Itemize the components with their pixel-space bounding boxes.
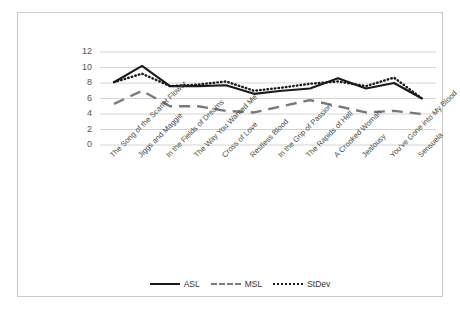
y-axis-tick-label: 8	[68, 77, 92, 87]
y-axis-tick-label: 4	[68, 108, 92, 118]
legend-key-icon	[211, 283, 241, 285]
legend-item-stdev[interactable]: StDev	[273, 279, 330, 289]
y-axis-tick-label: 10	[68, 62, 92, 72]
y-axis-tick-label: 2	[68, 124, 92, 134]
y-axis-tick-label: 12	[68, 46, 92, 56]
legend-label: MSL	[245, 279, 262, 289]
legend-item-asl[interactable]: ASL	[150, 279, 200, 289]
chart-legend: ASLMSLStDev	[130, 276, 350, 292]
legend-key-icon	[150, 283, 180, 285]
legend-label: StDev	[307, 279, 330, 289]
y-axis-tick-label: 0	[68, 139, 92, 149]
legend-item-msl[interactable]: MSL	[211, 279, 262, 289]
legend-key-icon	[273, 283, 303, 285]
y-axis-tick-label: 6	[68, 93, 92, 103]
legend-label: ASL	[184, 279, 200, 289]
